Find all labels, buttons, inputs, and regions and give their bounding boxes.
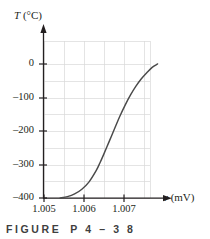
x-axis-label-units: (mV) [171,191,195,203]
grid-horizontal-lines [44,41,150,198]
y-axis-label: T (°C) [14,10,42,21]
y-tick-label-0: 0 [0,58,34,69]
y-tick-label-minus200: –200 [0,125,34,136]
y-tick-label-minus100: –100 [0,92,34,103]
y-tick-label-minus400: –400 [0,192,34,203]
y-axis-label-units: (°C) [23,9,42,21]
plot-canvas [0,0,210,216]
y-axis [40,24,46,199]
figure-caption-label: FIGURE [6,223,61,235]
grid-vertical-lines [44,41,150,198]
figure-caption: FIGURE P 4 – 3 8 [6,221,206,237]
figure-caption-number: P 4 – 3 8 [70,223,135,235]
figure-container: T (°C) v (mV) 0 –100 –200 –300 –400 1.00… [0,0,210,239]
x-tick-label-1005: 1.005 [22,204,66,215]
x-axis-label: v (mV) [163,192,194,203]
x-tick-label-1007: 1.007 [102,204,146,215]
x-tick-label-1006: 1.006 [62,204,106,215]
y-axis-arrow-icon [40,24,46,33]
y-tick-label-minus300: –300 [0,159,34,170]
